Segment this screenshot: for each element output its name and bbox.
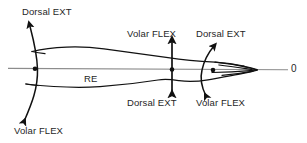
label-volar-flex-mid: Volar FLEX xyxy=(127,28,176,39)
label-dorsal-ext-left: Dorsal EXT xyxy=(22,6,72,17)
label-dorsal-ext-mid: Dorsal EXT xyxy=(127,97,177,108)
distal-pivot-dot xyxy=(211,68,216,73)
diagram-root: Dorsal EXT Volar FLEX Volar FLEX Dorsal … xyxy=(0,0,307,143)
label-axis-origin: 0 xyxy=(291,63,297,74)
label-volar-flex-right: Volar FLEX xyxy=(196,97,245,108)
radius-bone-outline xyxy=(26,47,257,87)
proximal-rotation-arrow xyxy=(24,25,38,122)
label-radius-re: RE xyxy=(84,73,97,84)
label-dorsal-ext-right: Dorsal EXT xyxy=(196,28,246,39)
proximal-pivot-dot xyxy=(33,67,38,72)
label-volar-flex-left: Volar FLEX xyxy=(14,125,63,136)
mid-shaft-pivot-dot xyxy=(170,67,175,72)
diagram-canvas xyxy=(0,0,307,143)
